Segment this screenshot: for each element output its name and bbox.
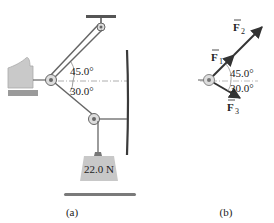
force-2-label: F 2 bbox=[233, 20, 245, 36]
weight-label: 22.0 N bbox=[84, 163, 114, 175]
hand-icon bbox=[8, 57, 38, 96]
top-pulley-icon bbox=[97, 23, 105, 31]
angle-label-upper-b: 45.0° bbox=[230, 67, 254, 79]
angle-label-lower-b: 30.0° bbox=[230, 82, 254, 94]
figure-a: 45.0° 30.0° 22.0 N (a) bbox=[8, 15, 136, 219]
angle-label-upper-a: 45.0° bbox=[70, 65, 94, 77]
svg-text:F: F bbox=[233, 21, 240, 33]
svg-text:2: 2 bbox=[241, 27, 245, 36]
weight-hook bbox=[94, 152, 102, 156]
force-3-label: F 3 bbox=[227, 100, 239, 116]
svg-text:F: F bbox=[211, 51, 218, 63]
angle-label-lower-a: 30.0° bbox=[70, 85, 94, 97]
pulley-icon-b bbox=[198, 75, 215, 86]
caption-b: (b) bbox=[220, 206, 233, 219]
force-1-label: F 1 bbox=[211, 50, 223, 66]
svg-text:F: F bbox=[227, 101, 234, 113]
diagram-canvas: 45.0° 30.0° 22.0 N (a) bbox=[0, 0, 274, 223]
figure-b: 45.0° 30.0° F 1 F 2 F 3 (b) bbox=[198, 20, 262, 219]
svg-text:1: 1 bbox=[219, 57, 223, 66]
svg-text:3: 3 bbox=[235, 107, 239, 116]
wall bbox=[127, 50, 128, 155]
caption-a: (a) bbox=[66, 206, 79, 219]
floor bbox=[64, 193, 136, 196]
